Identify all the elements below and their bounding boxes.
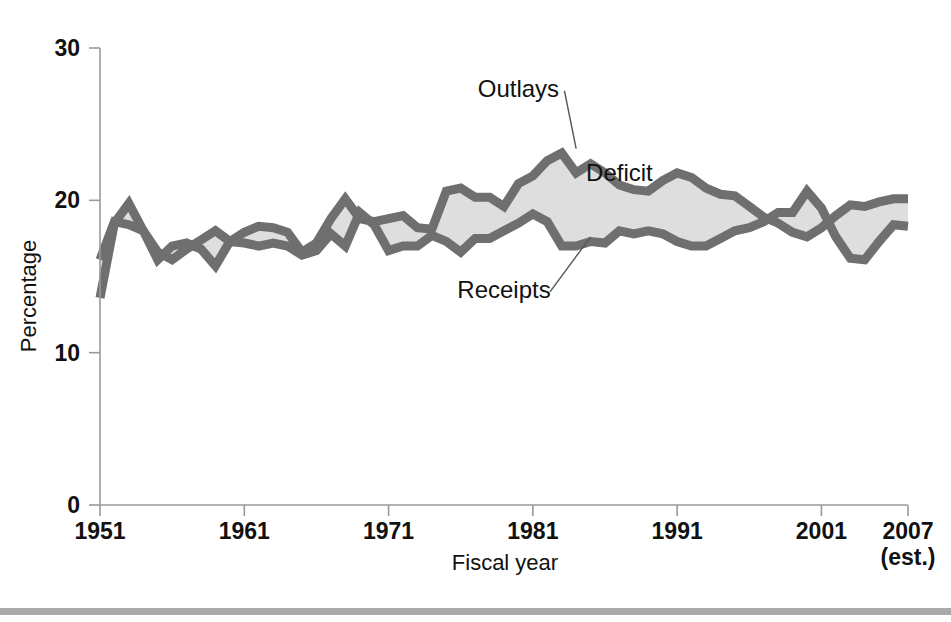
annotation-receipts: Receipts bbox=[457, 276, 550, 303]
leader-line-outlays bbox=[564, 91, 576, 149]
y-tick-label: 0 bbox=[67, 492, 80, 518]
bottom-divider-rule bbox=[0, 608, 951, 615]
y-tick-label: 30 bbox=[54, 35, 80, 61]
figure-container: 0102030 1951196119711981199120012007(est… bbox=[0, 0, 951, 622]
y-axis-title: Percentage bbox=[16, 240, 41, 353]
annotation-outlays: Outlays bbox=[478, 75, 559, 102]
x-tick-label: 1991 bbox=[652, 518, 703, 544]
y-tick-label: 20 bbox=[54, 187, 80, 213]
x-tick-label: 1981 bbox=[507, 518, 558, 544]
x-axis-title: Fiscal year bbox=[452, 550, 558, 575]
x-tick-label: 1971 bbox=[363, 518, 414, 544]
y-tick-label: 10 bbox=[54, 340, 80, 366]
x-tick-label: 2007 bbox=[882, 518, 933, 544]
x-tick-sublabel-est: (est.) bbox=[881, 544, 936, 570]
budget-area-chart: 0102030 1951196119711981199120012007(est… bbox=[0, 0, 951, 622]
annotation-deficit: Deficit bbox=[586, 159, 653, 186]
x-tick-label: 1951 bbox=[74, 518, 125, 544]
x-tick-label: 2001 bbox=[796, 518, 847, 544]
y-axis-ticks: 0102030 bbox=[54, 35, 100, 518]
x-tick-label: 1961 bbox=[219, 518, 270, 544]
